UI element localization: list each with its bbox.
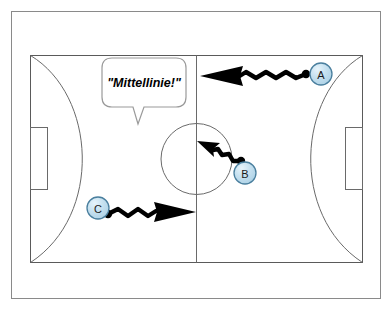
player-c-label: C bbox=[94, 203, 102, 215]
player-marker-a[interactable]: A bbox=[310, 63, 332, 85]
player-a-label: A bbox=[317, 69, 325, 81]
player-b-label: B bbox=[241, 168, 248, 180]
handball-court-diagram: "Mittellinie!" A B bbox=[0, 0, 392, 312]
left-goal bbox=[31, 128, 48, 190]
player-marker-b[interactable]: B bbox=[234, 162, 256, 184]
player-marker-c[interactable]: C bbox=[87, 197, 109, 219]
speech-bubble-text: "Mittellinie!" bbox=[107, 76, 182, 90]
player-a-start-dot bbox=[302, 70, 310, 78]
court-svg: "Mittellinie!" A B bbox=[0, 0, 392, 312]
right-goal bbox=[346, 128, 363, 190]
